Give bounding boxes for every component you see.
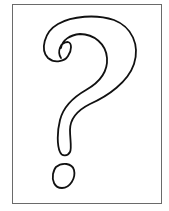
question-mark-icon: [0, 0, 169, 211]
